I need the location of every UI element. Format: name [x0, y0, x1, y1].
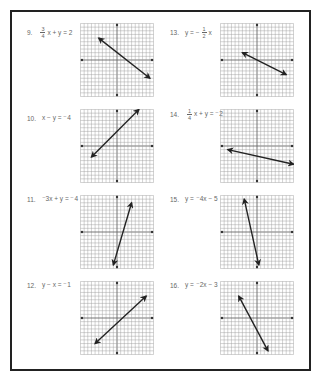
axis-end-marker	[151, 145, 153, 147]
equation-pre: ⁻3x + y = ⁻4	[42, 195, 79, 203]
fraction: 1 2	[202, 26, 207, 39]
axis-end-marker	[221, 317, 223, 319]
axis-end-marker	[151, 231, 153, 233]
axis-end-marker	[256, 266, 258, 268]
equation-pre: y = ⁻4x − 5	[185, 195, 218, 203]
graphed-line	[113, 203, 131, 265]
axis-end-marker	[256, 282, 258, 284]
axis-end-marker	[116, 196, 118, 198]
axis-end-marker	[151, 59, 153, 61]
problem-number: 16.	[170, 282, 179, 289]
axis-end-marker	[221, 231, 223, 233]
problem-number: 14.	[170, 111, 179, 118]
axis-end-marker	[256, 94, 258, 96]
equation-pre: y = −	[185, 29, 199, 36]
coordinate-grid-14	[220, 109, 294, 183]
axis-end-marker	[151, 317, 153, 319]
coordinate-grid-13	[220, 23, 294, 97]
grid-svg	[80, 281, 154, 355]
axis-end-marker	[256, 352, 258, 354]
grid-svg	[220, 281, 294, 355]
axis-end-marker	[116, 24, 118, 26]
fraction: 1 4	[187, 108, 192, 121]
axis-end-marker	[81, 59, 83, 61]
problem-13-label: 13. y = − 1 2 x	[170, 26, 212, 39]
problem-number: 11.	[27, 196, 36, 203]
coordinate-grid-16	[220, 281, 294, 355]
coordinate-grid-15	[220, 195, 294, 269]
grid-svg	[80, 195, 154, 269]
fraction-denominator: 4	[41, 33, 44, 39]
equation-pre: y = ⁻2x − 3	[185, 281, 218, 289]
axis-end-marker	[116, 266, 118, 268]
problem-15-label: 15. y = ⁻4x − 5	[170, 195, 218, 203]
axis-end-marker	[256, 110, 258, 112]
equation-post: x + y = ⁻2	[194, 110, 223, 118]
axis-end-marker	[291, 231, 293, 233]
axis-end-marker	[221, 59, 223, 61]
axis-end-marker	[291, 59, 293, 61]
axis-end-marker	[81, 231, 83, 233]
axis-end-marker	[116, 282, 118, 284]
axis-end-marker	[116, 352, 118, 354]
axis-end-marker	[256, 196, 258, 198]
problem-number: 13.	[170, 29, 179, 36]
axis-end-marker	[81, 317, 83, 319]
equation-post: x	[209, 29, 212, 36]
equation-pre: x − y = ⁻4	[42, 114, 71, 122]
fraction: 3 4	[40, 26, 45, 39]
problem-number: 12.	[27, 282, 36, 289]
axis-end-marker	[116, 180, 118, 182]
problem-9-label: 9. 3 4 x + y = 2	[27, 26, 72, 39]
axis-end-marker	[256, 180, 258, 182]
grid-svg	[220, 195, 294, 269]
grid-svg	[80, 109, 154, 183]
coordinate-grid-10	[80, 109, 154, 183]
grid-svg	[220, 109, 294, 183]
problem-14-label: 14. 1 4 x + y = ⁻2	[170, 108, 223, 121]
grid-svg	[220, 23, 294, 97]
problem-10-label: 10. x − y = ⁻4	[27, 114, 71, 122]
problem-number: 10.	[27, 115, 36, 122]
axis-end-marker	[116, 110, 118, 112]
coordinate-grid-11	[80, 195, 154, 269]
problem-11-label: 11. ⁻3x + y = ⁻4	[27, 195, 78, 203]
equation-pre: y − x = ⁻1	[42, 281, 71, 289]
fraction-denominator: 4	[188, 115, 191, 121]
axis-end-marker	[291, 317, 293, 319]
coordinate-grid-9	[80, 23, 154, 97]
equation-post: x + y = 2	[47, 29, 72, 36]
axis-end-marker	[291, 145, 293, 147]
problem-number: 15.	[170, 196, 179, 203]
problem-16-label: 16. y = ⁻2x − 3	[170, 281, 218, 289]
axis-end-marker	[256, 24, 258, 26]
grid-svg	[80, 23, 154, 97]
axis-end-marker	[81, 145, 83, 147]
fraction-denominator: 2	[202, 33, 205, 39]
coordinate-grid-12	[80, 281, 154, 355]
axis-end-marker	[221, 145, 223, 147]
axis-end-marker	[116, 94, 118, 96]
problem-12-label: 12. y − x = ⁻1	[27, 281, 71, 289]
problem-number: 9.	[27, 29, 32, 36]
